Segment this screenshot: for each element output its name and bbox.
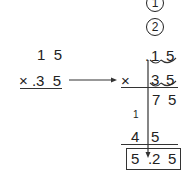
- sum-line: [121, 144, 178, 145]
- right-multiplier-digit: 5: [166, 72, 174, 87]
- right-multiplier-digit: 3: [151, 72, 159, 87]
- right-multiplicand-digit: 5: [166, 48, 174, 63]
- right-underline: [121, 87, 178, 88]
- result-digit: 2: [152, 151, 160, 166]
- partial-product-1-digit: 7: [152, 92, 160, 107]
- right-multiplicand-digit: 1: [151, 48, 159, 63]
- times-sign: ×: [121, 73, 130, 88]
- result-digit: 5: [131, 151, 139, 166]
- partial-product-2-digit: 4: [131, 129, 139, 144]
- carry-digit: 1: [133, 107, 139, 122]
- partial-product-2-digit: 5: [151, 129, 159, 144]
- partial-product-1-digit: 5: [168, 92, 176, 107]
- result-digit: 5: [168, 151, 176, 166]
- right-multiplicand-decimal: .: [145, 48, 149, 63]
